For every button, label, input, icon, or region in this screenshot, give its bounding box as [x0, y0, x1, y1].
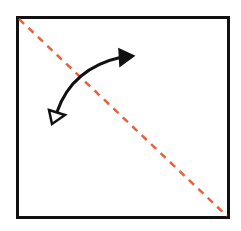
diagram-canvas	[0, 0, 241, 231]
fold-diagram	[0, 0, 241, 231]
